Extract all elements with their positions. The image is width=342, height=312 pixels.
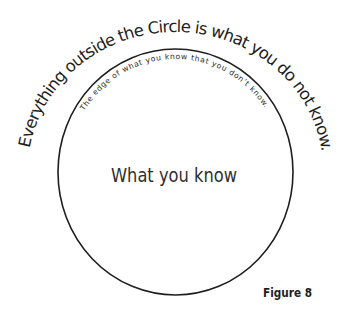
figure-label: Figure 8 <box>263 285 312 300</box>
outer-caption: Everything outside the Circle is what yo… <box>15 17 337 153</box>
outer-caption-path: Everything outside the Circle is what yo… <box>15 17 337 153</box>
center-label: What you know <box>111 164 237 186</box>
edge-caption: The edge of what you know that you don’t… <box>78 52 271 113</box>
edge-caption-path: The edge of what you know that you don’t… <box>78 52 271 113</box>
knowledge-circle-diagram: Everything outside the Circle is what yo… <box>0 0 342 312</box>
